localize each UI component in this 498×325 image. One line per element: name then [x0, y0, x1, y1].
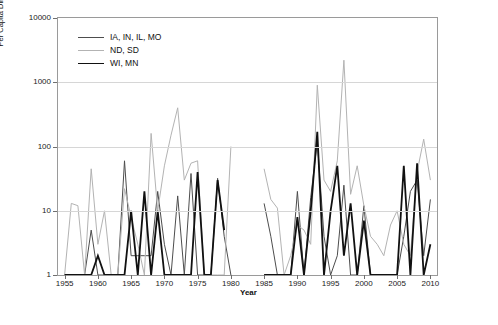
series-line	[65, 108, 231, 275]
y-tick-mark	[53, 82, 57, 83]
legend-label-ia-in-il-mo: IA, IN, IL, MO	[110, 33, 161, 42]
gridline	[58, 147, 437, 148]
x-tick-label: 1980	[216, 280, 246, 288]
x-tick-label: 1985	[249, 280, 279, 288]
x-axis-label: Year	[240, 288, 257, 297]
legend: IA, IN, IL, MO ND, SD WI, MN	[78, 31, 161, 70]
y-tick-label: 1	[17, 271, 51, 279]
y-tick-mark	[53, 275, 57, 276]
legend-item: WI, MN	[78, 57, 161, 70]
x-tick-label: 2005	[382, 280, 412, 288]
legend-label-wi-mn: WI, MN	[110, 59, 138, 68]
y-tick-label: 1000	[17, 78, 51, 86]
series-line	[264, 132, 430, 275]
series-line	[264, 141, 430, 275]
y-tick-mark	[53, 147, 57, 148]
x-tick-label: 1955	[50, 280, 80, 288]
x-tick-label: 1975	[183, 280, 213, 288]
x-tick-label: 2000	[349, 280, 379, 288]
x-tick-label: 2010	[415, 280, 445, 288]
legend-item: IA, IN, IL, MO	[78, 31, 161, 44]
legend-swatch-wi-mn	[78, 63, 104, 64]
x-tick-label: 1990	[282, 280, 312, 288]
series-line	[264, 60, 430, 275]
gridline	[58, 211, 437, 212]
legend-item: ND, SD	[78, 44, 161, 57]
series-line	[65, 172, 225, 275]
y-tick-mark	[53, 18, 57, 19]
x-tick-label: 1970	[149, 280, 179, 288]
y-axis-label: Per Capita Direct Damage (millions of 19…	[0, 0, 5, 60]
legend-label-nd-sd: ND, SD	[110, 46, 139, 55]
x-tick-label: 1995	[316, 280, 346, 288]
gridline	[58, 82, 437, 83]
chart-container: 110100100010000 195519601965197019751980…	[0, 0, 498, 325]
x-tick-label: 1965	[116, 280, 146, 288]
y-tick-label: 10	[17, 207, 51, 215]
legend-swatch-nd-sd	[78, 50, 104, 51]
y-tick-label: 100	[17, 143, 51, 151]
y-tick-label: 10000	[17, 14, 51, 22]
y-tick-mark	[53, 211, 57, 212]
x-tick-label: 1960	[83, 280, 113, 288]
series-line	[65, 161, 231, 275]
legend-swatch-ia-in-il-mo	[78, 37, 104, 38]
